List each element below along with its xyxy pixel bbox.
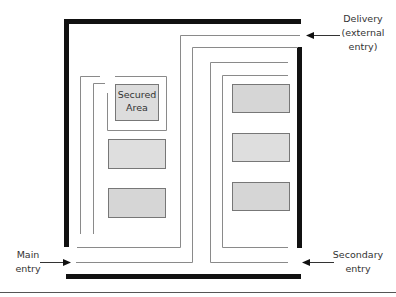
bottom-wall bbox=[66, 274, 301, 279]
delivery-line1: Delivery bbox=[338, 12, 388, 26]
route-left-inner bbox=[94, 84, 106, 235]
main-entry-line2: entry bbox=[10, 262, 46, 276]
main-entry-line1: Main bbox=[10, 248, 46, 262]
delivery-line3: entry) bbox=[338, 40, 388, 54]
right-wall bbox=[297, 47, 302, 248]
top-wall bbox=[64, 19, 301, 24]
secondary-entry-label: Secondary entry bbox=[328, 248, 388, 276]
secured-area-label: Secured Area bbox=[115, 88, 159, 114]
secured-area-line1: Secured bbox=[115, 88, 159, 101]
right-rack-3 bbox=[233, 183, 290, 211]
secondary-entry-line1: Secondary bbox=[328, 248, 388, 262]
right-rack-2 bbox=[233, 134, 290, 162]
delivery-label: Delivery (external entry) bbox=[338, 12, 388, 54]
arrowhead-left-icon bbox=[306, 32, 314, 39]
main-entry-label: Main entry bbox=[10, 248, 46, 276]
right-rack-1 bbox=[233, 85, 290, 113]
delivery-line2: (external bbox=[338, 26, 388, 40]
secured-area-line2: Area bbox=[115, 101, 159, 114]
left-rack-2 bbox=[109, 189, 166, 218]
left-rack-1 bbox=[109, 140, 166, 169]
arrowhead-left-icon bbox=[302, 259, 310, 266]
secondary-entry-line2: entry bbox=[328, 262, 388, 276]
delivery-arrow bbox=[306, 32, 340, 39]
arrowhead-right-icon bbox=[63, 259, 71, 266]
left-wall bbox=[64, 19, 69, 247]
route-left-outer bbox=[81, 77, 101, 235]
